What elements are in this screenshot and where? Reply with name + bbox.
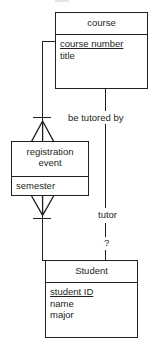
connector-course-to-registration-horizontal xyxy=(42,41,56,42)
connector-be-tutored-by-segment-bottom xyxy=(105,250,106,260)
connector-registration-to-student-vertical xyxy=(42,213,43,261)
entity-registration-event-title: registration event xyxy=(12,142,88,177)
entity-student[interactable]: Student student ID name major xyxy=(45,260,138,338)
relationship-label-be-tutored-by: be tutored by xyxy=(66,112,125,123)
cardinality-label-unknown: ? xyxy=(102,237,111,248)
top-crop-artifact xyxy=(55,0,69,2)
role-label-tutor: tutor xyxy=(96,209,119,220)
attribute-course-number: course number xyxy=(60,38,143,50)
entity-course[interactable]: course course number title xyxy=(55,12,148,89)
attribute-student-major: major xyxy=(50,309,133,321)
entity-student-title: Student xyxy=(46,261,137,283)
connector-registration-to-student-horizontal xyxy=(42,260,54,261)
entity-course-attributes: course number title xyxy=(56,35,147,65)
connector-course-to-registration-vertical xyxy=(42,41,43,121)
entity-student-attributes: student ID name major xyxy=(46,283,137,325)
entity-registration-event-attributes: semester xyxy=(12,177,88,196)
connector-be-tutored-by-segment-middle xyxy=(105,124,106,208)
er-diagram-canvas: course course number title registration … xyxy=(0,0,156,348)
attribute-student-id: student ID xyxy=(50,286,133,298)
connector-be-tutored-by-segment-lower xyxy=(105,223,106,238)
attribute-student-name: name xyxy=(50,298,133,310)
attribute-semester: semester xyxy=(16,180,84,192)
attribute-course-title: title xyxy=(60,50,143,62)
cardinality-one-tick-course-registration xyxy=(33,117,51,118)
crows-foot-registration-top xyxy=(30,121,55,142)
connector-be-tutored-by-segment-upper xyxy=(105,89,106,111)
entity-course-title: course xyxy=(56,13,147,35)
entity-registration-event[interactable]: registration event semester xyxy=(11,141,89,196)
